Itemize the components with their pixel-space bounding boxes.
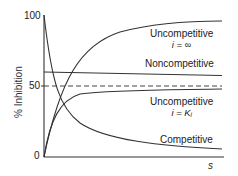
y-tick-label-100: 100 <box>24 11 41 21</box>
label-uncompetitive-ki-line2: i = Kᵢ <box>150 108 213 118</box>
label-noncompetitive: Noncompetitive <box>145 59 214 70</box>
label-uncompetitive-ki: Uncompetitive i = Kᵢ <box>150 97 213 117</box>
label-uncompetitive-inf-line1: Uncompetitive <box>150 28 213 39</box>
y-axis-label: % Inhibition <box>13 66 24 118</box>
label-uncompetitive-ki-line1: Uncompetitive <box>150 96 213 107</box>
label-uncompetitive-inf: Uncompetitive i = ∞ <box>150 29 213 49</box>
y-tick-label-50: 50 <box>29 81 40 91</box>
label-uncompetitive-inf-line2: i = ∞ <box>150 40 213 50</box>
y-tick-label-0: 0 <box>34 151 40 161</box>
label-competitive: Competitive <box>160 135 213 146</box>
x-axis-label: s <box>208 160 213 171</box>
